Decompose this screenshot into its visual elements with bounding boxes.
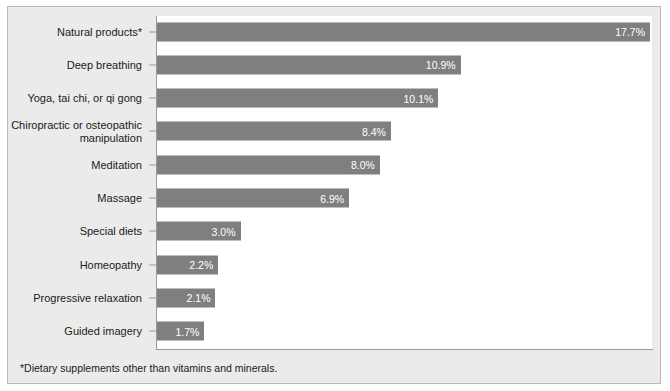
category-label: Yoga, tai chi, or qi gong (8, 92, 142, 105)
bar-value-label: 17.7% (615, 26, 645, 38)
bar-value-label: 2.2% (189, 259, 213, 271)
bar-value-label: 8.0% (351, 159, 375, 171)
axis-tick (149, 164, 156, 165)
bar-value-label: 3.0% (212, 225, 236, 237)
bar: 10.9% (157, 55, 461, 74)
bar: 6.9% (157, 189, 349, 208)
bar-row: Meditation8.0% (8, 149, 660, 180)
bar-row: Yoga, tai chi, or qi gong10.1% (8, 83, 660, 114)
bar: 2.2% (157, 255, 218, 274)
bar: 3.0% (157, 222, 241, 241)
bar: 2.1% (157, 288, 215, 307)
bar-value-label: 2.1% (187, 292, 211, 304)
axis-tick (149, 231, 156, 232)
bar: 17.7% (157, 22, 650, 41)
chart-footnote: *Dietary supplements other than vitamins… (20, 362, 277, 374)
category-label: Massage (8, 192, 142, 205)
axis-tick (149, 198, 156, 199)
bar: 8.0% (157, 155, 380, 174)
x-axis-line (156, 349, 653, 350)
bar-row: Special diets3.0% (8, 216, 660, 247)
bar-value-label: 1.7% (175, 325, 199, 337)
category-label: Homeopathy (8, 258, 142, 271)
axis-tick (149, 297, 156, 298)
category-label: Progressive relaxation (8, 292, 142, 305)
category-label: Natural products* (8, 25, 142, 38)
bar-value-label: 10.9% (426, 59, 456, 71)
bar-row: Chiropractic or osteopathic manipulation… (8, 116, 660, 147)
bar-value-label: 6.9% (320, 192, 344, 204)
axis-tick (149, 98, 156, 99)
axis-tick (149, 331, 156, 332)
category-label: Chiropractic or osteopathic manipulation (8, 119, 142, 144)
category-label: Guided imagery (8, 325, 142, 338)
chart-figure: Natural products*17.7%Deep breathing10.9… (7, 6, 661, 384)
category-label: Special diets (8, 225, 142, 238)
bar-row: Guided imagery1.7% (8, 316, 660, 347)
axis-tick (149, 64, 156, 65)
bar: 1.7% (157, 322, 204, 341)
bar-row: Natural products*17.7% (8, 16, 660, 47)
axis-tick (149, 31, 156, 32)
bar-row: Massage6.9% (8, 183, 660, 214)
bar-row: Homeopathy2.2% (8, 249, 660, 280)
axis-tick (149, 131, 156, 132)
bar: 10.1% (157, 89, 438, 108)
bar-row: Deep breathing10.9% (8, 49, 660, 80)
category-label: Meditation (8, 158, 142, 171)
bar: 8.4% (157, 122, 391, 141)
bar-value-label: 8.4% (362, 125, 386, 137)
category-label: Deep breathing (8, 59, 142, 72)
axis-tick (149, 264, 156, 265)
bar-value-label: 10.1% (404, 92, 434, 104)
bar-row: Progressive relaxation2.1% (8, 282, 660, 313)
